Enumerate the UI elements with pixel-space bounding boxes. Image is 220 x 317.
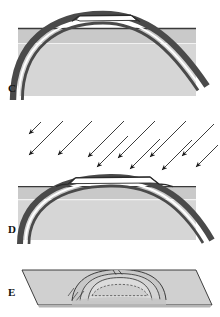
erosion-arrow	[29, 122, 41, 134]
erosion-arrow	[97, 136, 128, 167]
erosion-arrow	[58, 121, 92, 155]
erosion-of-a-dome-figure: C	[0, 0, 220, 317]
erosion-arrow	[196, 145, 218, 167]
panel-label-c: C	[8, 82, 16, 94]
erosion-arrow-group	[29, 121, 218, 170]
erosion-arrow	[162, 140, 192, 170]
panel-e: E	[8, 270, 212, 308]
panel-c: C	[8, 14, 207, 100]
panel-label-d: D	[8, 223, 16, 235]
panel-d: D	[8, 121, 218, 244]
erosion-arrow	[130, 139, 160, 169]
erosion-arrow	[29, 121, 63, 155]
panel-label-e: E	[8, 286, 16, 298]
erosion-arrow	[182, 124, 214, 156]
panel-c-breached-crest	[72, 15, 140, 22]
erosion-arrow	[118, 121, 155, 158]
erosion-arrow	[88, 121, 124, 157]
